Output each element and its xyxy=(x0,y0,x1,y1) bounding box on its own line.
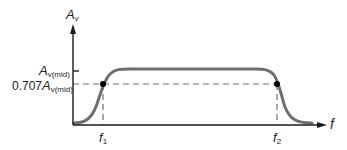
mid-level-label: Av(mid) xyxy=(39,64,70,79)
y-axis-label-sub: v xyxy=(75,14,79,23)
y-axis-arrow-icon xyxy=(70,24,76,34)
x-axis-label: f xyxy=(330,117,334,131)
cutoff-level-sub: v(mid) xyxy=(51,85,73,94)
cutoff-level-label: 0.707Av(mid) xyxy=(12,79,73,94)
f1-label-sub: 1 xyxy=(103,137,107,146)
x-axis-arrow-icon xyxy=(317,122,327,128)
f1-cutoff-point xyxy=(100,81,106,87)
response-curve xyxy=(74,69,312,123)
f2-label-sub: 2 xyxy=(277,137,281,146)
f2-cutoff-point xyxy=(274,81,280,87)
y-axis-label: Av xyxy=(66,8,79,23)
cutoff-guides xyxy=(73,84,277,125)
axes xyxy=(73,33,318,125)
f1-label: f1 xyxy=(99,131,107,146)
cutoff-level-prefix: 0.707 xyxy=(12,79,42,93)
mid-level-label-sub: v(mid) xyxy=(48,70,70,79)
y-axis-label-main: A xyxy=(66,7,75,22)
cutoff-level-main: A xyxy=(42,78,51,93)
f2-label: f2 xyxy=(273,131,281,146)
mid-level-label-main: A xyxy=(39,63,48,78)
frequency-response-diagram: Av Av(mid) 0.707Av(mid) f1 f2 f xyxy=(0,0,347,150)
